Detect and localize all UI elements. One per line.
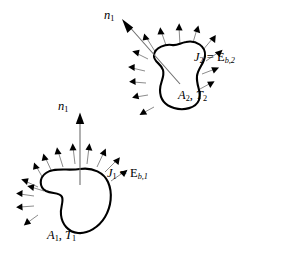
emission-ray — [202, 67, 219, 74]
area-symbol: A — [178, 88, 186, 102]
emission-ray — [16, 203, 34, 210]
radiosity-diagram: n1 n1 J2 = Eb,2 A2, T2 J1 = Eb,1 A1, T1 — [0, 0, 288, 258]
emission-ray — [97, 149, 106, 167]
temperature-subscript: 2 — [203, 94, 207, 103]
equals-sign: = — [204, 50, 217, 64]
emission-ray — [86, 143, 93, 164]
area-subscript: 1 — [55, 234, 59, 243]
emissive-power-subscript: b,2 — [225, 56, 235, 65]
emission-ray — [128, 64, 145, 71]
surface-2-area-temp-label: A2, T2 — [178, 89, 207, 102]
radiosity-symbol: J — [107, 166, 113, 180]
emissive-power-symbol: E — [217, 50, 225, 64]
emission-ray — [176, 23, 183, 45]
emissive-power-subscript: b,1 — [138, 172, 148, 181]
normal-subscript: 1 — [110, 14, 114, 23]
temperature-symbol: T — [65, 228, 72, 242]
radiosity-subscript: 1 — [113, 172, 117, 181]
surface-1-area-temp-label: A1, T1 — [47, 229, 76, 242]
surface-1-normal-label: n1 — [58, 100, 68, 113]
normal-subscript: 1 — [64, 105, 68, 114]
surface-2-radiosity-label: J2 = Eb,2 — [194, 51, 235, 64]
equals-sign: = — [117, 166, 130, 180]
emission-ray — [140, 107, 155, 115]
temperature-symbol: T — [196, 88, 203, 102]
area-subscript: 2 — [186, 94, 190, 103]
emission-ray — [70, 143, 77, 164]
emission-ray — [16, 190, 34, 197]
surface-1-radiosity-label: J1 = Eb,1 — [107, 167, 148, 180]
area-symbol: A — [47, 228, 55, 242]
emission-ray — [129, 78, 146, 85]
emissive-power-symbol: E — [130, 166, 138, 180]
emission-ray — [132, 50, 148, 59]
emission-ray — [132, 92, 148, 99]
temperature-subscript: 1 — [72, 234, 76, 243]
surface-2-normal-label: n1 — [104, 9, 114, 22]
radiosity-subscript: 2 — [200, 56, 204, 65]
emission-ray — [55, 147, 63, 167]
surface-2-group — [122, 19, 223, 115]
surface-1-outline — [41, 169, 111, 233]
diagram-canvas — [0, 0, 288, 258]
emission-ray — [42, 153, 52, 172]
emission-ray — [24, 215, 38, 225]
radiosity-symbol: J — [194, 50, 200, 64]
